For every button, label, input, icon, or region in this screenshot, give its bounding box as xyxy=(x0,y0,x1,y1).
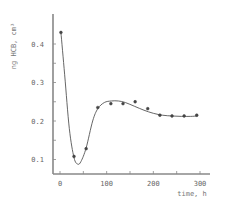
data-point xyxy=(122,102,125,105)
fitted-curve xyxy=(61,32,198,164)
chart: 0.10.20.30.40100200300 ng HCB, cm³ time,… xyxy=(0,0,225,205)
data-point xyxy=(109,102,112,105)
data-point xyxy=(183,115,186,118)
data-point xyxy=(171,115,174,118)
data-point xyxy=(146,107,149,110)
y-tick-label: 0.1 xyxy=(31,156,44,164)
axes xyxy=(53,14,210,174)
plot-area: 0.10.20.30.40100200300 ng HCB, cm³ time,… xyxy=(0,0,225,205)
data-point xyxy=(60,31,63,34)
x-tick-label: 300 xyxy=(194,180,207,188)
data-point xyxy=(195,114,198,117)
y-tick-label: 0.3 xyxy=(31,79,44,87)
data-point xyxy=(73,155,76,158)
x-tick-label: 100 xyxy=(100,180,113,188)
x-tick-label: 200 xyxy=(147,180,160,188)
y-tick-label: 0.4 xyxy=(31,41,44,49)
tick-labels: 0.10.20.30.40100200300 xyxy=(31,41,206,189)
data-point xyxy=(96,106,99,109)
data-point xyxy=(158,114,161,117)
data-point xyxy=(134,100,137,103)
x-tick-label: 0 xyxy=(58,180,62,188)
y-tick-label: 0.2 xyxy=(31,118,44,126)
data-point xyxy=(85,147,88,150)
y-axis-title: ng HCB, cm³ xyxy=(10,23,18,69)
data-points xyxy=(60,31,199,158)
fitted-curve-path xyxy=(61,32,198,164)
x-axis-title: time, h xyxy=(177,190,207,198)
